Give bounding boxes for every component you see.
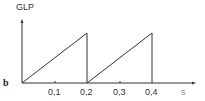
y-axis-label: GLP [16,3,34,12]
y-axis-arrow-icon [21,19,24,23]
x-axis-label: s [181,88,186,97]
origin-label: b [3,78,9,88]
x-axis-arrow-icon [192,82,196,85]
x-tick-label: 0,2 [80,88,93,97]
sawtooth-chart [0,0,205,101]
x-tick-label: 0,4 [145,88,158,97]
x-tick-label: 0,3 [113,88,126,97]
sawtooth-line [22,33,152,83]
x-tick-label: 0,1 [48,88,61,97]
